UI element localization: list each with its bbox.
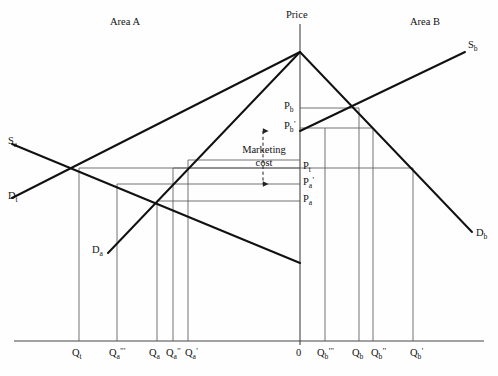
curve-label-Sa-name: S: [8, 135, 14, 146]
qty-label-Qa2-name: Q: [166, 347, 174, 358]
curve-label-Sa: Sa: [8, 136, 17, 147]
price-label-Pb-sub: b: [290, 105, 294, 114]
panel-title-area-b: Area B: [410, 17, 440, 28]
qty-label-Qa-prime: Qa': [185, 348, 198, 359]
qty-label-Qb3-sup: ''': [329, 346, 335, 356]
qty-label-Qa-sub: a: [157, 352, 160, 361]
qty-label-Qb3-name: Q: [317, 347, 325, 358]
qty-label-Qb2-sup: '': [383, 346, 387, 356]
qty-label-Qt-sub: t: [80, 352, 82, 361]
guide-lines-area-b: [325, 108, 413, 341]
panel-title-area-a: Area A: [110, 17, 140, 28]
curve-label-Dt-sub: t: [16, 195, 18, 204]
curve-label-Sb-name: S: [468, 39, 474, 50]
qty-label-Qa-triple-prime: Qa''': [109, 348, 125, 359]
curve-Db: [300, 52, 472, 232]
curve-label-Sb: Sb: [468, 40, 478, 51]
price-label-Pb-name: P: [284, 100, 290, 111]
price-label-Pb: Pb: [284, 101, 294, 112]
price-label-Pb-prime-name: P: [284, 120, 290, 131]
curve-label-Db: Db: [476, 228, 487, 239]
price-label-Pt-sub: t: [309, 165, 311, 174]
qty-label-Qb1-sup: ': [422, 346, 424, 356]
qty-label-Qb-double-prime: Qb'': [371, 348, 386, 359]
qty-label-Qb3-sub: b: [325, 352, 329, 361]
price-label-Pb-prime: Pb': [284, 121, 295, 132]
diagram-canvas: [0, 0, 498, 376]
qty-label-Qt: Qt: [72, 348, 82, 359]
qty-label-Qt-name: Q: [72, 347, 80, 358]
marketing-cost-annotation: Marketing cost: [224, 143, 304, 169]
curve-label-Da-sub: a: [100, 249, 103, 258]
qty-label-Qa3-sup: ''': [120, 346, 126, 356]
qty-label-Qb1-sub: b: [418, 352, 422, 361]
qty-label-Qb-sub: b: [360, 352, 364, 361]
economics-diagram: Area A Area B Price Sa Dt Da Sb Db Pb Pb…: [0, 0, 498, 376]
curve-label-Da-name: D: [92, 244, 100, 255]
origin-label: 0: [296, 348, 301, 359]
qty-label-Qa3-name: Q: [109, 347, 117, 358]
qty-label-Qa-double-prime: Qa'': [166, 348, 181, 359]
price-label-Pa-sub: a: [309, 198, 312, 207]
qty-label-Qa2-sup: '': [177, 346, 181, 356]
qty-label-Qa-name: Q: [149, 347, 157, 358]
curve-label-Sb-sub: b: [474, 44, 478, 53]
curve-Sb: [300, 52, 465, 131]
marketing-cost-line1: Marketing: [242, 144, 286, 155]
curve-label-Db-sub: b: [484, 232, 488, 241]
price-label-Pa-prime-sub: a: [309, 181, 312, 190]
qty-label-Qa1-name: Q: [185, 347, 193, 358]
price-label-Pa-prime: Pa': [303, 177, 314, 188]
qty-label-Qb-prime: Qb': [410, 348, 423, 359]
price-label-Pa-prime-name: P: [303, 176, 309, 187]
price-label-Pa-name: P: [303, 193, 309, 204]
qty-label-Qb-triple-prime: Qb''': [317, 348, 334, 359]
qty-label-Qb1-name: Q: [410, 347, 418, 358]
price-label-Pa: Pa: [303, 194, 312, 205]
curve-Dt: [12, 52, 300, 198]
price-label-Pb-prime-sup: ': [294, 119, 296, 129]
marketing-cost-line2: cost: [256, 157, 273, 168]
qty-label-Qb-name: Q: [352, 347, 360, 358]
qty-label-Qb: Qb: [352, 348, 363, 359]
curve-label-Dt-name: D: [8, 190, 16, 201]
qty-label-Qa: Qa: [149, 348, 160, 359]
qty-label-Qa1-sup: ': [196, 346, 198, 356]
curve-label-Da: Da: [92, 245, 103, 256]
qty-label-Qb2-sub: b: [379, 352, 383, 361]
axis-label-price: Price: [286, 10, 308, 21]
qty-label-Qb2-name: Q: [371, 347, 379, 358]
curve-label-Sa-sub: a: [14, 140, 17, 149]
curve-label-Db-name: D: [476, 227, 484, 238]
price-label-Pt: Pt: [303, 161, 311, 172]
curve-label-Dt: Dt: [8, 191, 18, 202]
